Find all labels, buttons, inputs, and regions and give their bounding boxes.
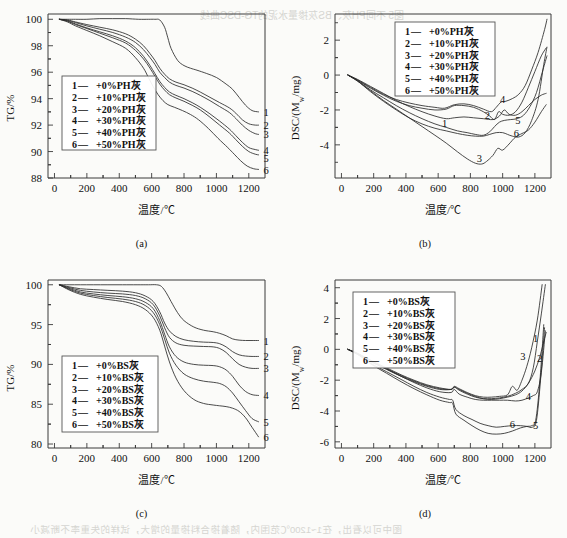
x-tick-label: 1000 <box>492 452 515 464</box>
x-tick-label: 800 <box>176 452 193 464</box>
legend-label-4: +30%BS灰 <box>387 330 435 342</box>
y-tick-label: -2 <box>320 374 329 386</box>
legend-label-2: +10%PH灰 <box>96 91 146 103</box>
panel-a-caption: (a) <box>0 238 283 249</box>
x-tick-label: 1200 <box>238 452 261 464</box>
y-tick-label: 85 <box>31 398 43 410</box>
chart-a-tg-ph: 020040060080010001200889092949698100温度/℃… <box>0 0 283 236</box>
y-tick-label: 0 <box>324 69 330 81</box>
legend-label-6: +50%BS灰 <box>387 354 435 366</box>
x-tick-label: 1000 <box>205 182 228 194</box>
legend-number-4: 4 <box>72 395 77 406</box>
legend-dash-4: — <box>410 61 422 72</box>
legend-label-3: +20%BS灰 <box>96 383 144 395</box>
x-tick-label: 0 <box>52 182 58 194</box>
x-tick-label: 400 <box>111 452 128 464</box>
curve-inline-label-2: 2 <box>485 110 490 121</box>
y-axis-label: DSC/(Mw/mg) <box>289 75 306 140</box>
figure-page: 图5 不同PH灰、BS灰掺量水泥的TG-DSC曲线 图中可以看出，在1~1200… <box>0 0 567 538</box>
x-tick-label: 200 <box>79 182 96 194</box>
curve-inline-label-4: 4 <box>526 391 532 402</box>
panel-d: 020040060080010001200-6-4-2024温度/℃DSC/(M… <box>283 260 567 538</box>
x-tick-label: 600 <box>430 452 447 464</box>
legend-dash-6: — <box>77 419 89 430</box>
legend-number-1: 1 <box>363 296 368 307</box>
y-tick-label: 88 <box>31 172 43 184</box>
x-tick-label: 1200 <box>238 182 261 194</box>
legend-label-3: +20%PH灰 <box>96 103 146 115</box>
legend-dash-5: — <box>77 127 89 138</box>
curve-inline-label-2: 2 <box>537 353 542 364</box>
legend-number-6: 6 <box>405 85 410 96</box>
curve-inline-label-4: 4 <box>500 94 506 105</box>
x-tick-label: 200 <box>365 182 382 194</box>
x-tick-label: 600 <box>430 182 447 194</box>
legend-number-1: 1 <box>72 80 77 91</box>
legend-label-5: +40%BS灰 <box>96 406 144 418</box>
panel-b-caption: (b) <box>283 238 567 249</box>
curve-inline-label-3: 3 <box>520 351 525 362</box>
legend-label-1: +0%BS灰 <box>387 295 430 307</box>
curve-end-label-6: 6 <box>263 165 268 176</box>
x-tick-label: 800 <box>462 452 479 464</box>
panel-d-caption: (d) <box>283 508 567 519</box>
x-tick-label: 800 <box>176 182 193 194</box>
curve-end-label-3: 3 <box>263 363 268 374</box>
chart-svg-a: 020040060080010001200889092949698100温度/℃… <box>0 0 283 236</box>
x-tick-label: 0 <box>52 452 58 464</box>
y-tick-label: 90 <box>31 358 43 370</box>
legend-dash-2: — <box>77 92 89 103</box>
x-tick-label: 1000 <box>492 182 515 194</box>
legend-dash-5: — <box>368 343 380 354</box>
legend-dash-1: — <box>410 26 422 37</box>
legend-dash-2: — <box>77 372 89 383</box>
legend-number-3: 3 <box>72 384 77 395</box>
y-tick-label: 96 <box>31 66 43 78</box>
chart-svg-b: 020040060080010001200-4-202温度/℃DSC/(Mw/m… <box>283 0 567 236</box>
y-tick-label: 95 <box>31 319 43 331</box>
y-tick-label: 92 <box>31 119 42 131</box>
legend-number-5: 5 <box>72 127 77 138</box>
legend-dash-4: — <box>77 395 89 406</box>
legend-label-1: +0%PH灰 <box>96 79 141 91</box>
legend-number-6: 6 <box>72 139 77 150</box>
legend-number-2: 2 <box>405 38 410 49</box>
y-axis-label: TG/% <box>4 95 16 122</box>
legend-dash-3: — <box>77 104 89 115</box>
curve-inline-label-1: 1 <box>442 118 447 129</box>
legend-label-6: +50%BS灰 <box>96 418 144 430</box>
y-tick-label: 2 <box>324 313 330 325</box>
y-tick-label: 94 <box>31 93 43 105</box>
legend-label-1: +0%PH灰 <box>429 25 474 37</box>
legend-label-5: +40%PH灰 <box>429 72 479 84</box>
legend-label-2: +10%PH灰 <box>429 37 479 49</box>
x-axis-label: 温度/℃ <box>138 203 174 216</box>
legend-number-5: 5 <box>405 73 410 84</box>
chart-c-tg-bs: 02004006008001000120080859095100温度/℃TG/%… <box>0 260 283 514</box>
legend-label-1: +0%BS灰 <box>96 359 139 371</box>
x-tick-label: 0 <box>339 182 345 194</box>
y-tick-label: -2 <box>320 104 329 116</box>
y-tick-label: 100 <box>26 279 43 291</box>
legend-number-1: 1 <box>72 360 77 371</box>
chart-svg-d: 020040060080010001200-6-4-2024温度/℃DSC/(M… <box>283 260 567 514</box>
y-tick-label: -4 <box>320 405 330 417</box>
y-axis-label: DSC/(Mw/mg) <box>289 345 306 410</box>
x-tick-label: 400 <box>398 452 415 464</box>
legend-label-2: +10%BS灰 <box>387 307 435 319</box>
legend-label-6: +50%PH灰 <box>429 84 479 96</box>
legend-number-2: 2 <box>72 372 77 383</box>
x-tick-label: 1200 <box>524 452 547 464</box>
x-tick-label: 200 <box>365 452 382 464</box>
legend-dash-6: — <box>368 355 380 366</box>
legend-number-3: 3 <box>72 104 77 115</box>
legend-dash-2: — <box>368 308 380 319</box>
legend-label-2: +10%BS灰 <box>96 371 144 383</box>
y-tick-label: 4 <box>324 282 330 294</box>
y-tick-label: 100 <box>26 13 43 25</box>
legend-dash-6: — <box>410 85 422 96</box>
chart-svg-c: 02004006008001000120080859095100温度/℃TG/%… <box>0 260 283 514</box>
curve-inline-label-5: 5 <box>533 420 538 431</box>
panel-c-caption: (c) <box>0 508 283 519</box>
curve-end-label-6: 6 <box>263 432 268 443</box>
